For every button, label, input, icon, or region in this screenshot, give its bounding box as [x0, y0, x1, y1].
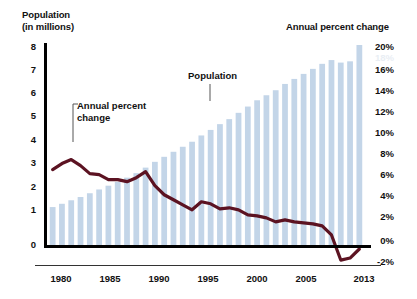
population-bar [301, 74, 307, 246]
population-bar [152, 162, 158, 246]
population-bars [50, 45, 362, 246]
population-bar [338, 63, 344, 246]
population-bar [356, 45, 362, 246]
population-bar [198, 135, 204, 246]
population-bar [133, 173, 139, 246]
population-bar [329, 60, 335, 246]
population-bar [96, 189, 102, 246]
population-bar [143, 168, 149, 246]
chart-container: Population (in millions) Annual percent … [0, 0, 417, 299]
population-bar [319, 64, 325, 246]
population-bar [106, 186, 112, 246]
population-bar [208, 130, 214, 246]
population-bar [161, 157, 167, 246]
population-bar [115, 182, 121, 246]
population-bar [264, 95, 270, 246]
population-bar [189, 142, 195, 246]
population-bar [59, 204, 65, 246]
population-bar [124, 178, 130, 246]
population-bar [310, 69, 316, 246]
population-bar [68, 200, 74, 246]
chart-plot-area [0, 0, 417, 299]
population-bar [226, 119, 232, 246]
leader-line-annual-percent-change [73, 104, 78, 142]
population-bar [78, 197, 84, 246]
population-bar [180, 147, 186, 246]
population-bar [347, 61, 353, 246]
population-bar [87, 193, 93, 246]
population-bar [217, 124, 223, 246]
population-bar [50, 207, 56, 246]
population-bar [236, 113, 242, 246]
population-bar [254, 100, 260, 246]
population-bar [245, 107, 251, 246]
